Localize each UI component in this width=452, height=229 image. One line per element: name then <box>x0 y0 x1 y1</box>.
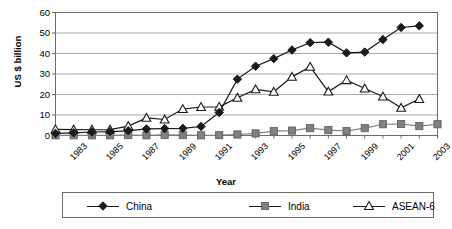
data-point-marker <box>342 76 351 84</box>
data-point-marker <box>342 49 350 57</box>
data-point-marker <box>416 122 423 129</box>
series-asean-6 <box>51 62 424 133</box>
legend-item-china[interactable]: China <box>87 193 152 219</box>
data-point-marker <box>397 23 405 31</box>
data-point-marker <box>307 125 314 132</box>
data-point-marker <box>361 125 368 132</box>
data-point-marker <box>325 127 332 134</box>
legend-item-india[interactable]: India <box>249 193 310 219</box>
data-point-marker <box>251 62 259 70</box>
legend-marker-filled-diamond-icon <box>87 200 119 212</box>
data-point-marker <box>233 75 241 83</box>
data-point-marker <box>288 127 295 134</box>
legend-marker-filled-square-icon <box>249 200 281 212</box>
data-point-marker <box>99 202 107 210</box>
data-point-marker <box>306 62 315 70</box>
data-point-marker <box>270 128 277 135</box>
data-point-marker <box>343 127 350 134</box>
data-point-marker <box>415 22 423 30</box>
data-point-marker <box>415 95 424 103</box>
data-point-marker <box>365 202 374 210</box>
data-point-marker <box>234 131 241 138</box>
data-point-marker <box>306 38 314 46</box>
data-point-marker <box>360 84 369 92</box>
series-china <box>51 22 423 138</box>
data-point-marker <box>197 132 204 139</box>
data-point-marker <box>288 46 296 54</box>
data-point-marker <box>261 202 268 209</box>
legend-item-asean-6[interactable]: ASEAN-6 <box>353 193 435 219</box>
data-point-marker <box>251 85 260 93</box>
data-point-marker <box>397 103 406 111</box>
chart-container: US $ billion Year 0102030405060 19831985… <box>0 0 452 229</box>
data-point-marker <box>379 35 387 43</box>
data-point-marker <box>216 131 223 138</box>
data-point-marker <box>379 92 388 100</box>
data-point-marker <box>398 120 405 127</box>
data-point-marker <box>434 121 441 128</box>
chart-legend: ChinaIndiaASEAN-6 <box>62 192 434 218</box>
legend-marker-open-triangle-icon <box>353 200 385 212</box>
legend-item-label: China <box>126 201 152 212</box>
legend-item-label: ASEAN-6 <box>392 201 435 212</box>
data-point-marker <box>270 54 278 62</box>
data-point-marker <box>252 130 259 137</box>
legend-item-label: India <box>288 201 310 212</box>
data-point-marker <box>379 121 386 128</box>
data-point-marker <box>324 38 332 46</box>
data-point-marker <box>361 48 369 56</box>
